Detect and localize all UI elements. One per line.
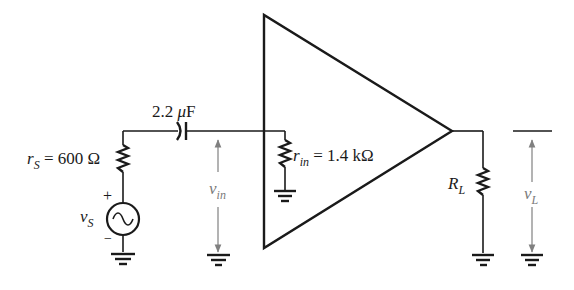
source-resistance-label: rS = 600 Ω xyxy=(27,150,100,167)
input-resistance-label: rin = 1.4 kΩ xyxy=(293,147,374,164)
load-resistor-icon xyxy=(478,168,488,195)
ground-icon-load xyxy=(472,255,494,265)
ground-icon-rin xyxy=(274,191,296,201)
capacitor-label: 2.2 μF xyxy=(152,103,196,120)
source-resistor-icon xyxy=(118,145,128,172)
ground-icon-vl xyxy=(521,255,543,265)
amplifier-triangle xyxy=(264,15,452,248)
source-plus-sign: + xyxy=(103,188,112,204)
ground-icon-source xyxy=(111,254,135,264)
ground-icon-vin xyxy=(207,255,230,265)
input-voltage-label: vin xyxy=(209,180,226,197)
circuit-diagram xyxy=(0,0,574,290)
load-resistor-label: RL xyxy=(448,175,465,192)
input-resistor-icon xyxy=(280,140,290,167)
source-voltage-label: vS xyxy=(80,208,94,225)
source-minus-sign: − xyxy=(104,232,112,246)
load-voltage-label: vL xyxy=(524,185,538,202)
